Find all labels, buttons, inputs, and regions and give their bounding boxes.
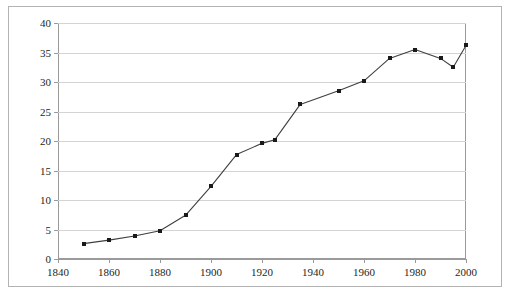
- data-point: [439, 56, 443, 60]
- x-tick-mark-1880: [160, 259, 161, 263]
- x-tick-mark-1860: [109, 259, 110, 263]
- data-point: [388, 56, 392, 60]
- y-tick-label-10: 10: [40, 195, 51, 206]
- x-tick-label-1900: 1900: [200, 267, 222, 278]
- y-tick-label-15: 15: [40, 165, 51, 176]
- data-point: [451, 65, 455, 69]
- x-tick-label-1920: 1920: [251, 267, 273, 278]
- data-point: [413, 48, 417, 52]
- caption-fragment: [8, 290, 428, 299]
- y-tick-label-35: 35: [40, 47, 51, 58]
- data-point: [298, 102, 302, 106]
- x-tick-mark-1980: [415, 259, 416, 263]
- x-tick-label-1980: 1980: [404, 267, 426, 278]
- data-point: [464, 43, 468, 47]
- data-point: [133, 234, 137, 238]
- y-tick-label-30: 30: [40, 77, 51, 88]
- data-point: [82, 242, 86, 246]
- data-point: [337, 89, 341, 93]
- x-tick-label-2000: 2000: [455, 267, 477, 278]
- x-tick-label-1840: 1840: [47, 267, 69, 278]
- chart-screenshot: 0510152025303540 18401860188019001920194…: [0, 0, 512, 299]
- data-point: [158, 229, 162, 233]
- data-point: [362, 79, 366, 83]
- y-tick-label-20: 20: [40, 136, 51, 147]
- y-tick-label-25: 25: [40, 106, 51, 117]
- x-tick-label-1960: 1960: [353, 267, 375, 278]
- data-point: [209, 184, 213, 188]
- x-tick-mark-1960: [364, 259, 365, 263]
- data-point: [273, 138, 277, 142]
- figure-frame: 0510152025303540 18401860188019001920194…: [8, 6, 502, 287]
- x-tick-label-1880: 1880: [149, 267, 171, 278]
- x-tick-label-1860: 1860: [98, 267, 120, 278]
- x-tick-mark-2000: [466, 259, 467, 263]
- plot-area: 0510152025303540 18401860188019001920194…: [58, 23, 466, 259]
- data-point: [235, 153, 239, 157]
- y-tick-label-40: 40: [40, 18, 51, 29]
- data-point: [260, 141, 264, 145]
- x-tick-mark-1840: [58, 259, 59, 263]
- data-point: [107, 238, 111, 242]
- y-tick-label-5: 5: [46, 224, 52, 235]
- x-tick-mark-1900: [211, 259, 212, 263]
- data-point: [184, 213, 188, 217]
- x-tick-label-1940: 1940: [302, 267, 324, 278]
- series-1-path: [84, 45, 467, 243]
- y-tick-label-0: 0: [46, 254, 52, 265]
- x-tick-mark-1940: [313, 259, 314, 263]
- x-tick-mark-1920: [262, 259, 263, 263]
